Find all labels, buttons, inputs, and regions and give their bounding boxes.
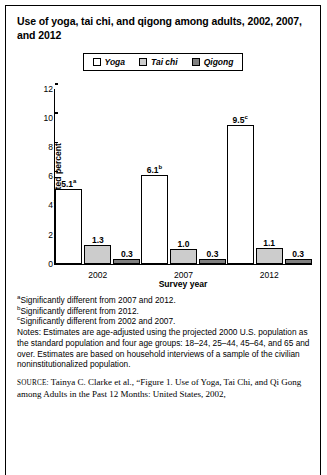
plot-axes: 0 2 4 6 8 10 12 5.1a 1.3 bbox=[54, 89, 312, 265]
bar-qigong-2007[interactable]: 0.3 bbox=[199, 259, 226, 263]
bar-value-tai-chi-2007: 1.0 bbox=[178, 239, 190, 249]
bar-groups: 5.1a 1.3 0.3 2002 bbox=[55, 89, 312, 264]
bar-slot-tai-chi-2002: 1.3 bbox=[84, 89, 111, 264]
bar-group-2007: 6.1b 1.0 0.3 2007 bbox=[141, 89, 227, 264]
bar-value-yoga-2002: 5.1a bbox=[61, 179, 76, 189]
bar-group-2002: 5.1a 1.3 0.3 2002 bbox=[55, 89, 141, 264]
y-axis-tick-label: 12 bbox=[44, 84, 55, 94]
y-axis-tick: 4 bbox=[48, 200, 55, 210]
source-keyword: SOURCE: bbox=[17, 379, 49, 387]
y-axis-tick: 10 bbox=[44, 113, 55, 123]
notes-text: Notes: Estimates are age-adjusted using … bbox=[17, 327, 310, 370]
bar-slot-yoga-2002: 5.1a bbox=[55, 89, 82, 264]
footnote-c: cSignificantly different from 2002 and 2… bbox=[17, 316, 310, 327]
y-axis-tick-label: 8 bbox=[48, 142, 55, 152]
footnote-text-a: Significantly different from 2007 and 20… bbox=[20, 295, 175, 305]
y-axis-tick-label: 4 bbox=[48, 200, 55, 210]
bar-slot-tai-chi-2012: 1.1 bbox=[256, 89, 283, 264]
footnote-a: aSignificantly different from 2007 and 2… bbox=[17, 295, 310, 306]
footnote-text-c: Significantly different from 2002 and 20… bbox=[20, 316, 175, 326]
bar-yoga-2012[interactable]: 9.5c bbox=[227, 125, 254, 264]
y-axis-tick: 12 bbox=[44, 84, 55, 94]
bar-slot-qigong-2012: 0.3 bbox=[285, 89, 312, 264]
footnote-b: bSignificantly different from 2012. bbox=[17, 306, 310, 317]
x-axis-title: Survey year bbox=[54, 279, 312, 289]
bar-value-tai-chi-2002: 1.3 bbox=[92, 235, 104, 245]
legend-item-yoga[interactable]: Yoga bbox=[93, 57, 125, 67]
bar-qigong-2002[interactable]: 0.3 bbox=[113, 259, 140, 263]
legend-swatch-tai-chi bbox=[139, 58, 147, 66]
bar-slot-tai-chi-2007: 1.0 bbox=[170, 89, 197, 264]
footnotes-section: aSignificantly different from 2007 and 2… bbox=[17, 295, 310, 370]
bar-yoga-2002[interactable]: 5.1a bbox=[55, 189, 82, 263]
bar-slot-qigong-2007: 0.3 bbox=[199, 89, 226, 264]
legend-swatch-yoga bbox=[93, 58, 101, 66]
legend-label-qigong: Qigong bbox=[204, 57, 234, 67]
bar-slot-yoga-2012: 9.5c bbox=[227, 89, 254, 264]
legend-label-tai-chi: Tai chi bbox=[151, 57, 178, 67]
figure-title: Use of yoga, tai chi, and qigong among a… bbox=[17, 15, 306, 43]
source-text: Tainya C. Clarke et al., “Figure 1. Use … bbox=[17, 377, 301, 399]
bar-group-2012: 9.5c 1.1 0.3 2012 bbox=[226, 89, 312, 264]
figure-container: Use of yoga, tai chi, and qigong among a… bbox=[5, 5, 321, 475]
plot-area: Age-adjusted percent 0 2 4 6 8 10 12 5.1… bbox=[6, 83, 320, 291]
y-axis-tick-label: 2 bbox=[48, 230, 55, 240]
y-axis-tick-label: 0 bbox=[48, 259, 55, 269]
bar-qigong-2012[interactable]: 0.3 bbox=[285, 259, 312, 263]
y-axis-tick-mark bbox=[55, 83, 58, 84]
footnote-text-b: Significantly different from 2012. bbox=[20, 306, 138, 316]
legend-item-tai-chi[interactable]: Tai chi bbox=[139, 57, 178, 67]
legend-swatch-qigong bbox=[192, 58, 200, 66]
bar-slot-qigong-2002: 0.3 bbox=[113, 89, 140, 264]
bar-tai-chi-2007[interactable]: 1.0 bbox=[170, 249, 197, 264]
bar-yoga-2007[interactable]: 6.1b bbox=[141, 175, 168, 264]
y-axis-tick: 0 bbox=[48, 259, 55, 269]
bar-slot-yoga-2007: 6.1b bbox=[141, 89, 168, 264]
y-axis-tick: 6 bbox=[48, 171, 55, 181]
legend: Yoga Tai chi Qigong bbox=[6, 53, 320, 71]
bar-value-tai-chi-2012: 1.1 bbox=[263, 238, 275, 248]
bar-value-yoga-2007: 6.1b bbox=[147, 165, 163, 175]
y-axis-tick-label: 6 bbox=[48, 171, 55, 181]
bar-value-qigong-2012: 0.3 bbox=[292, 249, 304, 259]
legend-box: Yoga Tai chi Qigong bbox=[83, 53, 244, 71]
legend-label-yoga: Yoga bbox=[105, 57, 125, 67]
y-axis-tick: 2 bbox=[48, 230, 55, 240]
legend-item-qigong[interactable]: Qigong bbox=[192, 57, 234, 67]
y-axis-tick: 8 bbox=[48, 142, 55, 152]
bar-value-qigong-2007: 0.3 bbox=[207, 249, 219, 259]
source-line: SOURCE: Tainya C. Clarke et al., “Figure… bbox=[17, 377, 310, 400]
bar-tai-chi-2002[interactable]: 1.3 bbox=[84, 245, 111, 264]
bar-value-yoga-2012: 9.5c bbox=[233, 115, 248, 125]
bar-value-qigong-2002: 0.3 bbox=[121, 249, 133, 259]
y-axis-tick-label: 10 bbox=[44, 113, 55, 123]
bar-tai-chi-2012[interactable]: 1.1 bbox=[256, 248, 283, 264]
